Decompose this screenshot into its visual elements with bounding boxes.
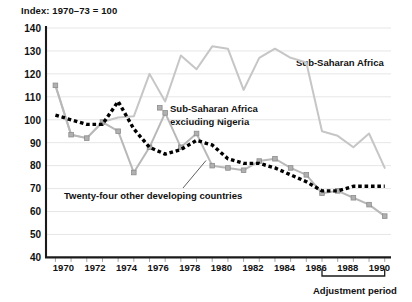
data-point-marker — [382, 214, 387, 219]
series-0 — [55, 46, 384, 168]
data-point-marker — [304, 173, 309, 178]
data-point-marker — [210, 163, 215, 168]
data-point-marker — [273, 156, 278, 161]
data-point-marker — [194, 131, 199, 136]
data-point-marker — [116, 129, 121, 134]
series-2 — [55, 101, 384, 190]
leader-line-twenty-four-others — [183, 161, 206, 189]
data-point-marker — [69, 132, 74, 137]
data-point-marker — [241, 168, 246, 173]
plot-area — [0, 0, 412, 302]
gridlines — [46, 28, 391, 234]
data-point-marker — [288, 166, 293, 171]
data-point-marker — [226, 166, 231, 171]
series-line — [55, 46, 384, 168]
data-point-marker — [367, 202, 372, 207]
series-layer — [53, 46, 387, 218]
series-line — [55, 101, 384, 190]
data-point-marker — [163, 111, 168, 116]
leader-lines — [183, 161, 206, 189]
data-point-marker — [84, 136, 89, 141]
data-point-marker — [53, 83, 58, 88]
chart-root: Index: 1970–73 = 100 140 130 120 110 100… — [0, 0, 412, 302]
data-point-marker — [132, 170, 137, 175]
series-1 — [53, 83, 387, 218]
series-line — [55, 85, 384, 216]
data-point-marker — [351, 195, 356, 200]
adjustment-period-bracket — [322, 269, 385, 276]
legend-marker-excluding-nigeria — [158, 106, 163, 111]
